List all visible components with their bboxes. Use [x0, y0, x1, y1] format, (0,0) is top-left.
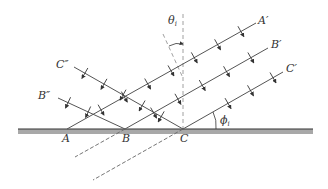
wavefront-c-arrow: [248, 85, 254, 95]
wavefront-a-arrow: [238, 26, 244, 36]
theta-arc: [169, 43, 183, 46]
wavefront-b-arrow: [151, 108, 157, 118]
label-c: C: [180, 132, 189, 145]
wavefront-a-arrow: [191, 52, 197, 62]
reflected-wavefront-c: [74, 67, 183, 129]
wavefront-b-arrow: [199, 80, 205, 90]
wavefront-b-arrow: [175, 94, 181, 104]
reflected-c-arrow: [101, 79, 107, 89]
label-b: B: [121, 132, 130, 145]
wavefront-b: [125, 48, 268, 129]
wavefront-a-arrow: [98, 105, 104, 115]
dashed-extension-c: [93, 129, 183, 180]
theta-label: θi: [168, 14, 177, 28]
label-c-double: C″: [56, 58, 69, 71]
reflected-c-arrow: [158, 111, 164, 121]
label-a: A: [61, 132, 70, 145]
reflected-c-arrow: [139, 101, 145, 111]
label-b-double: B″: [37, 89, 51, 102]
phi-label: ϕi: [220, 114, 230, 128]
wavefront-c-arrow: [270, 72, 276, 82]
wavefront-c-arrow: [225, 98, 231, 108]
label-a-prime: A′: [257, 14, 269, 27]
wavefront-b-arrow: [224, 66, 230, 76]
wavefront-a: [67, 23, 256, 129]
wavefront-a-arrow: [215, 39, 221, 49]
reflected-b-arrow: [66, 97, 71, 108]
wavefront-a-arrow: [145, 79, 151, 89]
label-c-prime: C′: [286, 62, 297, 75]
phi-arc: [213, 112, 216, 129]
wavefront-c: [183, 72, 283, 129]
label-b-prime: B′: [270, 38, 282, 51]
wavefront-b-arrow: [248, 52, 254, 62]
wavefront-a-arrow: [168, 65, 174, 75]
reflected-c-arrow: [82, 68, 88, 78]
wave-normal-line: [163, 34, 183, 78]
reflection-diagram: θi ϕi A B C A′ B′ C′ C″ B″: [0, 0, 328, 189]
